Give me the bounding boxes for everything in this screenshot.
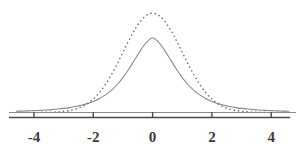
x-axis-tick-label-4: 4 <box>251 130 291 145</box>
normal-distribution-curve <box>16 13 289 112</box>
t-distribution-curve <box>16 38 289 111</box>
x-axis-tick-label-3: 2 <box>192 130 232 145</box>
x-axis-tick-label-1: -2 <box>73 130 113 145</box>
x-axis-tick-label-2: 0 <box>133 130 173 145</box>
x-axis-tick-label-0: -4 <box>14 130 54 145</box>
distribution-plot-figure: -4-2024 <box>0 0 304 152</box>
curve-layer <box>16 13 289 112</box>
